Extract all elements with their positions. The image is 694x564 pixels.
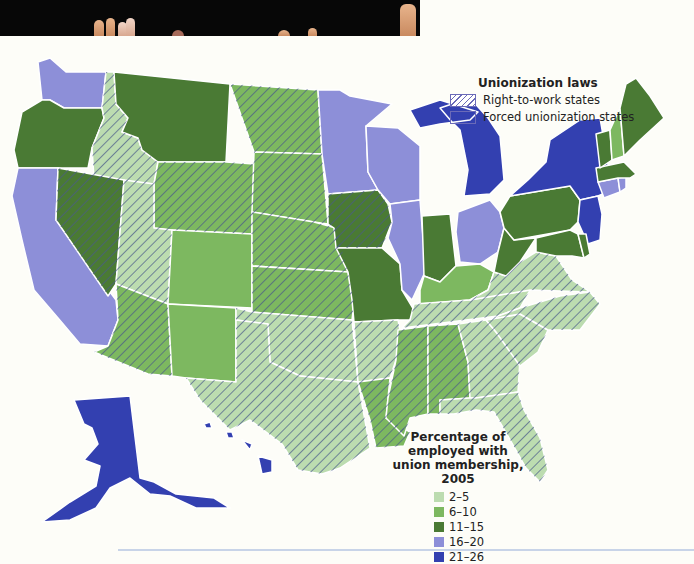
solid-swatch-icon — [450, 111, 476, 124]
legend-pct-title-line2: union membership, 2005 — [378, 458, 538, 486]
legend-pct-label: 16–20 — [449, 535, 484, 549]
color-swatch-icon — [434, 522, 444, 532]
legend-label: Right-to-work states — [483, 93, 600, 107]
legend-label: Forced unionization states — [483, 110, 634, 124]
hatched-swatch-icon — [450, 94, 476, 107]
state-wy — [154, 162, 254, 234]
state-nm — [168, 304, 236, 382]
color-swatch-icon — [434, 537, 444, 547]
legend-pct-item: 21–26 — [434, 549, 538, 564]
legend-item-forced-unionization: Forced unionization states — [450, 110, 634, 124]
page-bottom-rule — [118, 549, 694, 551]
state-ny — [510, 118, 612, 200]
legend-union-percentage: Percentage of employed with union member… — [378, 430, 538, 564]
legend-pct-item: 16–20 — [434, 534, 538, 549]
legend-pct-item: 2–5 — [434, 489, 538, 504]
legend-pct-list: 2–5 6–10 11–15 16–20 21–26 — [434, 489, 538, 564]
color-swatch-icon — [434, 507, 444, 517]
legend-pct-item: 6–10 — [434, 504, 538, 519]
legend-pct-label: 21–26 — [449, 550, 484, 564]
legend-pct-item: 11–15 — [434, 519, 538, 534]
state-ia — [328, 190, 392, 248]
state-co — [168, 230, 252, 308]
legend-pct-label: 2–5 — [449, 490, 469, 504]
state-ak — [42, 396, 230, 522]
legend-unionization-laws: Unionization laws Right-to-work states F… — [450, 76, 634, 124]
color-swatch-icon — [434, 552, 444, 562]
state-nd — [230, 84, 322, 154]
color-swatch-icon — [434, 492, 444, 502]
legend-item-right-to-work: Right-to-work states — [450, 93, 634, 107]
legend-laws-title: Unionization laws — [478, 76, 634, 90]
legend-pct-title-line1: Percentage of employed with — [378, 430, 538, 458]
state-ks — [252, 266, 354, 320]
state-or — [14, 100, 104, 168]
legend-pct-label: 6–10 — [449, 505, 477, 519]
legend-pct-label: 11–15 — [449, 520, 484, 534]
state-hi — [204, 422, 272, 474]
